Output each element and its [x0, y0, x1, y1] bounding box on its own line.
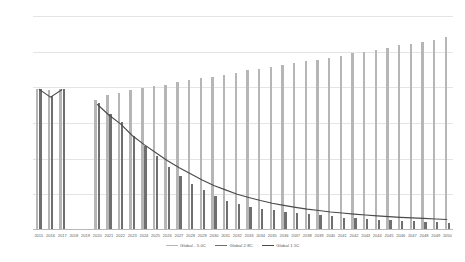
bar-group [407, 16, 419, 230]
bar [191, 184, 193, 230]
bar [118, 93, 120, 230]
bar [223, 75, 225, 230]
bar [168, 167, 170, 230]
x-axis-tick-label: 2043 [360, 231, 372, 241]
x-axis-tick-label: 2032 [231, 231, 243, 241]
bar [296, 213, 298, 230]
bar-group [173, 16, 185, 230]
x-axis-tick-label: 2019 [80, 231, 92, 241]
bar [270, 67, 272, 230]
bar-group [56, 16, 68, 230]
legend-item[interactable]: Global 1.5C [262, 243, 300, 248]
x-axis-tick-label: 2016 [45, 231, 57, 241]
bar [133, 136, 135, 230]
bar-group [313, 16, 325, 230]
bar-group [150, 16, 162, 230]
bar-group [371, 16, 383, 230]
bar-group [266, 16, 278, 230]
bar [445, 37, 447, 230]
x-axis-tick-label: 2046 [395, 231, 407, 241]
bar-group [336, 16, 348, 230]
bar [308, 214, 310, 230]
bar-group [348, 16, 360, 230]
x-axis-tick-label: 2017 [56, 231, 68, 241]
bar [164, 85, 166, 230]
x-axis-tick-label: 2036 [278, 231, 290, 241]
x-axis-tick-label: 2022 [115, 231, 127, 241]
x-axis-tick-label: 2044 [371, 231, 383, 241]
bar-group [45, 16, 57, 230]
bar-group [442, 16, 454, 230]
bar [284, 212, 286, 230]
x-axis-tick-label: 2048 [418, 231, 430, 241]
bar [246, 70, 248, 230]
bar [363, 52, 365, 230]
bar [144, 146, 146, 230]
bar-group [360, 16, 372, 230]
bar [153, 86, 155, 230]
chart-container: 02,0004,0006,0008,00010,00012,000 201520… [0, 0, 465, 262]
bar [51, 96, 53, 230]
bar-group [161, 16, 173, 230]
bar [109, 114, 111, 230]
legend-item[interactable]: Global 2.8C [215, 243, 253, 248]
bar [238, 204, 240, 230]
bar-columns [33, 16, 453, 230]
bar [200, 78, 202, 230]
legend-item[interactable]: Global - 5.0C [166, 243, 206, 248]
x-axis-tick-label: 2031 [220, 231, 232, 241]
bar [281, 65, 283, 230]
bar-group [103, 16, 115, 230]
bar-group [91, 16, 103, 230]
bar-group [80, 16, 92, 230]
x-axis-tick-label: 2030 [208, 231, 220, 241]
bar [48, 90, 50, 230]
legend-swatch-icon [215, 245, 227, 247]
x-axis-tick-label: 2033 [243, 231, 255, 241]
bar [410, 44, 412, 230]
chart-legend: Global - 5.0CGlobal 2.8CGlobal 1.5C [0, 243, 465, 248]
bar-group [185, 16, 197, 230]
bar [179, 176, 181, 230]
bar [305, 61, 307, 230]
bar [375, 50, 377, 230]
x-axis-tick-label: 2027 [173, 231, 185, 241]
x-axis-tick-labels: 2015201620172018201920202021202220232024… [33, 231, 453, 241]
bar [273, 210, 275, 230]
legend-swatch-icon [262, 245, 274, 247]
bar-group [33, 16, 45, 230]
bar-group [430, 16, 442, 230]
x-axis-tick-label: 2025 [150, 231, 162, 241]
bar [319, 215, 321, 230]
x-axis-tick-label: 2041 [336, 231, 348, 241]
x-axis-tick-label: 2029 [196, 231, 208, 241]
bar [261, 209, 263, 230]
x-axis-tick-label: 2021 [103, 231, 115, 241]
bar [258, 69, 260, 230]
bar-group [255, 16, 267, 230]
x-axis-tick-label: 2018 [68, 231, 80, 241]
bar [59, 89, 61, 230]
bar [211, 77, 213, 230]
bar [203, 190, 205, 230]
x-axis-tick-label: 2047 [407, 231, 419, 241]
x-axis-tick-label: 2039 [313, 231, 325, 241]
x-axis-tick-label: 2038 [301, 231, 313, 241]
x-axis-tick-label: 2015 [33, 231, 45, 241]
bar [398, 45, 400, 230]
bar-group [138, 16, 150, 230]
legend-swatch-icon [166, 245, 178, 247]
bar [235, 73, 237, 230]
bar-group [278, 16, 290, 230]
x-axis-tick-label: 2034 [255, 231, 267, 241]
bar [249, 207, 251, 230]
bar-group [418, 16, 430, 230]
bar [129, 90, 131, 230]
bar [214, 196, 216, 230]
x-axis-tick-label: 2050 [442, 231, 454, 241]
bar-group [126, 16, 138, 230]
bar-group [231, 16, 243, 230]
x-axis-line [33, 229, 453, 230]
bar [433, 40, 435, 230]
bar [328, 58, 330, 230]
